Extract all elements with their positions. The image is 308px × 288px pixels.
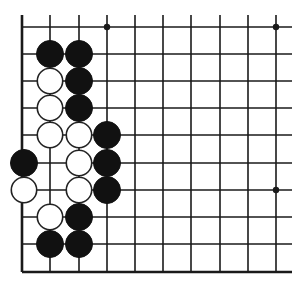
stones-layer: [11, 41, 121, 258]
white-stone: [37, 122, 62, 147]
black-stone: [94, 122, 121, 149]
white-stone: [11, 177, 36, 202]
star-point-icon: [273, 187, 279, 193]
black-stone: [37, 41, 64, 68]
black-stone: [66, 41, 93, 68]
black-stone: [66, 231, 93, 258]
white-stone: [37, 68, 62, 93]
black-stone: [66, 95, 93, 122]
black-stone: [11, 150, 38, 177]
white-stone: [66, 177, 91, 202]
black-stone: [94, 150, 121, 177]
black-stone: [94, 177, 121, 204]
white-stone: [37, 204, 62, 229]
black-stone: [37, 231, 64, 258]
white-stone: [66, 150, 91, 175]
white-stone: [66, 122, 91, 147]
star-point-icon: [104, 24, 110, 30]
black-stone: [66, 204, 93, 231]
black-stone: [66, 68, 93, 95]
white-stone: [37, 95, 62, 120]
go-board-diagram: [0, 0, 308, 288]
star-point-icon: [273, 24, 279, 30]
